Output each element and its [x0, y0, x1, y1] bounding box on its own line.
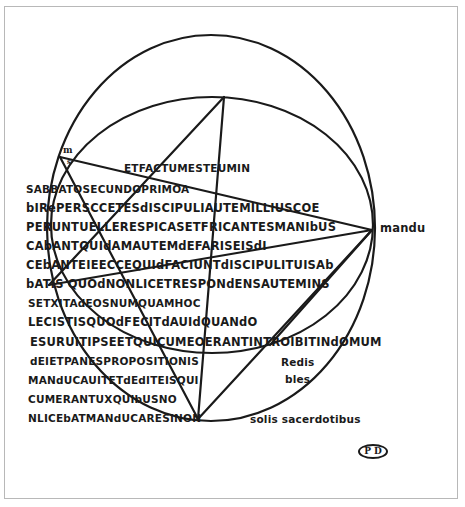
- text-line-11: dEIETPANESPROPOSITIONIS: [30, 356, 199, 367]
- text-redis: Redis: [281, 357, 315, 368]
- text-line-5: CAbANTQUIdAMAUTEMdEFARISEISdI: [26, 241, 267, 253]
- text-line-12: MANdUCAUITETdEdITEISQUI: [28, 375, 199, 386]
- pd-monogram: P D: [358, 444, 388, 459]
- text-line-3: bIRePERSCCETESdISCIPULIAUTEMILLIUSCOE: [26, 203, 320, 215]
- text-line-9: LECISTISQUOdFECITdAUIdQUANdO: [28, 317, 258, 329]
- text-line-8: SETXITAdEOSNUMQUAMHOC: [28, 298, 201, 309]
- text-line-4: PERUNTUELLERESPICASETFRICANTESMANIbUS: [26, 222, 336, 234]
- text-mandu: mandu: [380, 223, 425, 235]
- text-line-14: NLICEbATMANdUCARESINON: [28, 413, 201, 424]
- text-line-1: ETFACTUMESTEUMIN: [124, 163, 250, 174]
- corner-mark-m: m: [63, 146, 73, 155]
- text-solis-sacerdotibus: solis sacerdotibus: [250, 414, 361, 425]
- text-line-2: SABBATOSECUNDOPRIMOA: [26, 184, 189, 195]
- text-bles: bles: [285, 374, 310, 385]
- text-line-6: CEbANTEIEECCEQUIdFACIUNTdISCIPULITUISAb: [26, 260, 334, 272]
- text-line-7: bATIS QUOdNONLICETRESPONdENSAUTEMINS: [26, 279, 330, 291]
- text-line-10: ESURUITIPSEETQUICUMEOERANTINTROIBITINdOM…: [30, 337, 382, 349]
- text-line-13: CUMERANTUXQUIbUSNO: [28, 394, 177, 405]
- corner-mark-s: s: [67, 158, 71, 165]
- pentagram-diagram: [0, 0, 465, 507]
